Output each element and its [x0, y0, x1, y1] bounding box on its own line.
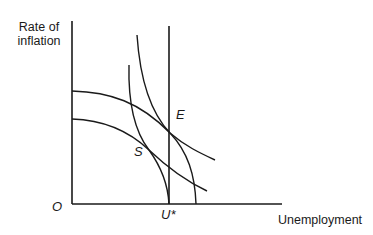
- x-axis-label: Unemployment: [278, 213, 362, 227]
- point-s-label: S: [134, 145, 143, 159]
- inner-steep-curve: [129, 65, 169, 204]
- y-axis-label: Rate of inflation: [14, 20, 64, 48]
- natural-rate-label: U*: [161, 208, 175, 222]
- y-axis-label-line1: Rate of: [14, 20, 64, 34]
- origin-label: O: [52, 200, 62, 214]
- upper-flat-curve: [72, 91, 215, 160]
- y-axis-label-line2: inflation: [14, 34, 64, 48]
- phillips-curve-diagram: Rate of inflation O U* E S Unemployment: [0, 0, 373, 235]
- outer-steep-curve: [137, 35, 196, 204]
- point-e-label: E: [176, 108, 185, 122]
